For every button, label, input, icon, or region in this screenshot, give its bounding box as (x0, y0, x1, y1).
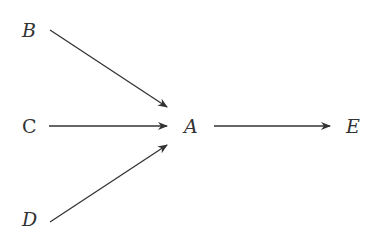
node-c-label: C (22, 117, 37, 136)
node-e-label: E (346, 117, 360, 136)
edge-b-to-a (50, 30, 167, 107)
node-d-label: D (22, 210, 37, 229)
edge-d-to-a (50, 145, 167, 222)
node-b-label: B (22, 21, 36, 40)
node-a-label: A (184, 117, 198, 136)
